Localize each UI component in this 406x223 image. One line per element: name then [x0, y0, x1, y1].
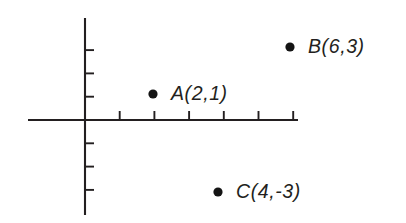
x-axis-ticks: [120, 111, 294, 120]
point-label-b: B(6,3): [308, 37, 365, 57]
point-label-a: A(2,1): [171, 84, 228, 104]
plot-canvas: [0, 0, 406, 223]
data-dot-b: [285, 42, 294, 51]
data-dot-a: [148, 89, 157, 98]
coordinate-plane-figure: A(2,1) B(6,3) C(4,-3): [0, 0, 406, 223]
point-label-c: C(4,-3): [236, 182, 301, 202]
data-dot-c: [213, 187, 222, 196]
